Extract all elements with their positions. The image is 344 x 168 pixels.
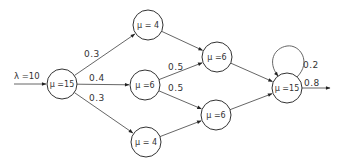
- node-n6: μ =6: [201, 100, 231, 130]
- edge-n1-n3: [77, 84, 129, 85]
- edge-label-n3-n6: 0.5: [168, 83, 184, 93]
- edge-n6-n7: [230, 94, 272, 110]
- self-loop-label: 0.2: [303, 60, 319, 70]
- edge-label-n3-n5: 0.5: [168, 62, 184, 72]
- edge-n5-n7: [231, 63, 273, 81]
- node-n2-label: μ = 4: [137, 21, 159, 30]
- node-n7: μ =15: [272, 73, 302, 103]
- edge-n2-n5: [162, 31, 203, 50]
- node-n5-label: μ =6: [207, 53, 226, 62]
- edge-n3-n6: [159, 91, 202, 109]
- node-n1-label: μ =15: [50, 80, 75, 89]
- node-n5: μ =6: [202, 42, 232, 72]
- node-n3: μ =6: [130, 70, 160, 100]
- node-n4: μ = 4: [131, 127, 161, 157]
- output-label: 0.8: [304, 78, 320, 88]
- self-loop-arrow: [273, 46, 304, 77]
- node-n1: μ =15: [47, 69, 77, 99]
- node-n3-label: μ =6: [135, 81, 154, 90]
- node-n4-label: μ = 4: [135, 138, 157, 147]
- node-n6-label: μ =6: [206, 111, 225, 120]
- edge-label-n1-n2: 0.3: [84, 49, 100, 59]
- arrival-rate-label: λ =10: [14, 71, 40, 81]
- queueing-network-diagram: λ =10 0.3 0.4 0.3 0.5 0.5 0.2 0.8 μ =15 …: [0, 0, 344, 168]
- node-n2: μ = 4: [133, 10, 163, 40]
- edge-n4-n6: [160, 121, 201, 137]
- edge-label-n1-n4: 0.3: [89, 93, 105, 103]
- edge-label-n1-n3: 0.4: [89, 73, 105, 83]
- node-n7-label: μ =15: [275, 84, 300, 93]
